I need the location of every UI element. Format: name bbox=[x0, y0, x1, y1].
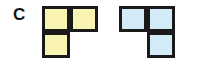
yellow-cell-r1c0 bbox=[42, 32, 70, 58]
yellow-cell-r0c1 bbox=[70, 6, 98, 32]
blue-cell-r0c1 bbox=[147, 6, 175, 32]
blue-tromino-shape bbox=[120, 7, 176, 59]
blue-cell-r1c0-empty bbox=[119, 32, 147, 58]
blue-cell-r0c0 bbox=[119, 6, 147, 32]
yellow-cell-r0c0 bbox=[42, 6, 70, 32]
panel-label: C bbox=[13, 5, 29, 25]
yellow-cell-r1c1-empty bbox=[70, 32, 98, 58]
figure-panel: C bbox=[0, 0, 203, 69]
yellow-tromino-shape bbox=[43, 7, 99, 59]
blue-cell-r1c1 bbox=[147, 32, 175, 58]
